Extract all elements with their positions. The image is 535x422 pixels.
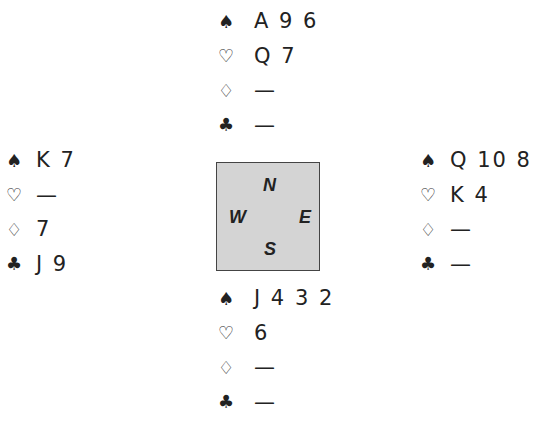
- east-spades: ♠Q 10 8: [420, 143, 532, 178]
- west-hearts: ♡—: [6, 178, 76, 213]
- heart-icon: ♡: [420, 184, 444, 205]
- north-spades: ♠A 9 6: [218, 4, 318, 39]
- diamond-icon: ♢: [6, 219, 30, 240]
- club-icon: ♣: [218, 391, 242, 412]
- compass-east-label: E: [299, 207, 311, 228]
- north-hearts: ♡Q 7: [218, 39, 318, 74]
- west-spades-cards: K 7: [36, 148, 76, 172]
- south-hand: ♠J 4 3 2 ♡6 ♢— ♣—: [218, 281, 334, 419]
- club-icon: ♣: [420, 253, 444, 274]
- south-clubs: ♣—: [218, 385, 334, 420]
- north-clubs: ♣—: [218, 108, 318, 143]
- west-clubs-cards: J 9: [36, 252, 68, 276]
- spade-icon: ♠: [218, 11, 242, 32]
- heart-icon: ♡: [6, 184, 30, 205]
- compass-south-label: S: [264, 239, 276, 260]
- north-clubs-cards: —: [254, 113, 277, 137]
- south-diamonds-cards: —: [254, 355, 277, 379]
- club-icon: ♣: [218, 114, 242, 135]
- east-hand: ♠Q 10 8 ♡K 4 ♢— ♣—: [420, 143, 532, 281]
- south-spades: ♠J 4 3 2: [218, 281, 334, 316]
- east-clubs-cards: —: [450, 252, 473, 276]
- heart-icon: ♡: [218, 322, 242, 343]
- south-hearts: ♡6: [218, 316, 334, 351]
- north-diamonds-cards: —: [254, 78, 277, 102]
- east-diamonds: ♢—: [420, 212, 532, 247]
- east-spades-cards: Q 10 8: [450, 148, 532, 172]
- west-diamonds-cards: 7: [36, 217, 51, 241]
- east-hearts-cards: K 4: [450, 183, 490, 207]
- heart-icon: ♡: [218, 45, 242, 66]
- west-hearts-cards: —: [36, 183, 59, 207]
- spade-icon: ♠: [420, 150, 444, 171]
- south-hearts-cards: 6: [254, 321, 269, 345]
- west-hand: ♠K 7 ♡— ♢7 ♣J 9: [6, 143, 76, 281]
- compass-box: N W E S: [216, 162, 320, 271]
- compass-west-label: W: [229, 207, 246, 228]
- north-diamonds: ♢—: [218, 73, 318, 108]
- diamond-icon: ♢: [218, 357, 242, 378]
- east-clubs: ♣—: [420, 247, 532, 282]
- east-diamonds-cards: —: [450, 217, 473, 241]
- diamond-icon: ♢: [218, 80, 242, 101]
- compass-north-label: N: [263, 175, 276, 196]
- east-hearts: ♡K 4: [420, 178, 532, 213]
- south-spades-cards: J 4 3 2: [254, 286, 334, 310]
- west-diamonds: ♢7: [6, 212, 76, 247]
- club-icon: ♣: [6, 253, 30, 274]
- west-spades: ♠K 7: [6, 143, 76, 178]
- spade-icon: ♠: [218, 288, 242, 309]
- south-clubs-cards: —: [254, 390, 277, 414]
- diamond-icon: ♢: [420, 219, 444, 240]
- north-spades-cards: A 9 6: [254, 9, 318, 33]
- north-hand: ♠A 9 6 ♡Q 7 ♢— ♣—: [218, 4, 318, 142]
- spade-icon: ♠: [6, 150, 30, 171]
- north-hearts-cards: Q 7: [254, 44, 297, 68]
- west-clubs: ♣J 9: [6, 247, 76, 282]
- south-diamonds: ♢—: [218, 350, 334, 385]
